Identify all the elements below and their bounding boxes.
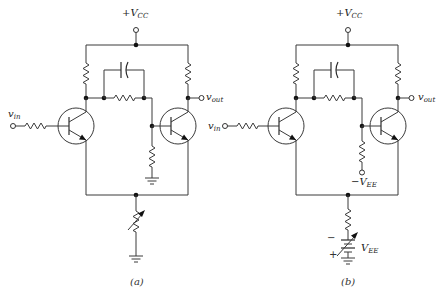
- vee-terminal-b: [360, 170, 365, 175]
- input-resistor-b: [234, 123, 260, 129]
- ground-icon: [145, 178, 159, 184]
- vin-label-b: vin: [208, 121, 220, 133]
- caption-a: (a): [130, 277, 144, 287]
- tail-resistor-b: [345, 206, 351, 232]
- vcc-terminal-a: [134, 28, 139, 33]
- circuit-diagram: [0, 0, 448, 296]
- ground-icon: [341, 258, 355, 264]
- vin-label-a: vin: [8, 109, 20, 121]
- variable-arrow-icon: [128, 210, 145, 230]
- vin-terminal-b: [223, 124, 228, 129]
- base-return-resistor-a: [149, 143, 155, 169]
- input-resistor-a: [22, 123, 48, 129]
- vcc-label-a: +VCC: [122, 8, 148, 20]
- transistor-q2-b: [370, 98, 406, 154]
- vout-label-b: vout: [418, 92, 435, 104]
- caption-b: (b): [341, 277, 355, 287]
- vcc-label-b: +VCC: [336, 8, 362, 20]
- plus-sign: +: [329, 250, 337, 260]
- ground-icon: [129, 256, 143, 262]
- minus-sign: −: [327, 233, 335, 243]
- vee-source-label-b: VEE: [361, 243, 378, 255]
- panel-a: [11, 28, 205, 263]
- vcc-terminal-b: [346, 28, 351, 33]
- panel-b: [223, 28, 415, 265]
- transistor-q2-a: [160, 98, 196, 154]
- base-return-resistor-b: [359, 138, 365, 164]
- vout-terminal-a: [199, 96, 204, 101]
- vout-label-a: vout: [206, 92, 223, 104]
- collector-resistor-left-a: [83, 60, 89, 86]
- neg-vee-label-b: −VEE: [351, 177, 377, 189]
- speedup-capacitor-b: [314, 62, 354, 98]
- collector-resistor-left-b: [293, 60, 299, 86]
- vout-terminal-b: [409, 96, 414, 101]
- coupling-resistor-a: [111, 95, 137, 101]
- speedup-capacitor-a: [104, 62, 144, 98]
- vin-terminal-a: [11, 124, 16, 129]
- transistor-q1-b: [268, 98, 304, 154]
- collector-resistor-right-a: [185, 60, 191, 86]
- collector-resistor-right-b: [395, 60, 401, 86]
- transistor-q1-a: [58, 98, 94, 154]
- coupling-resistor-b: [321, 95, 347, 101]
